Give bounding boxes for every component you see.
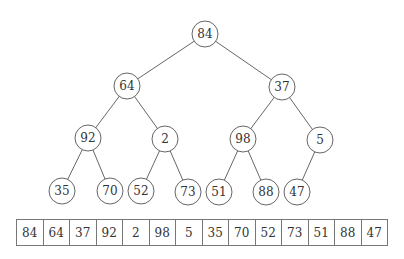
node-value: 73 <box>180 185 195 199</box>
tree-node: 52 <box>128 178 154 204</box>
tree-node: 64 <box>114 73 140 99</box>
tree-node: 88 <box>253 179 279 205</box>
tree-node: 84 <box>192 21 218 47</box>
node-value: 98 <box>235 132 250 146</box>
tree-node: 98 <box>230 126 256 152</box>
node-value: 64 <box>119 79 135 93</box>
node-value: 37 <box>274 80 289 94</box>
tree-node: 70 <box>97 178 123 204</box>
array-cell: 47 <box>362 220 389 245</box>
array-cell: 92 <box>97 220 124 245</box>
tree-edge <box>205 34 282 87</box>
node-value: 47 <box>289 185 304 199</box>
node-value: 88 <box>258 185 273 199</box>
array-cell: 84 <box>17 220 44 245</box>
node-value: 84 <box>197 27 213 41</box>
array-cell: 51 <box>309 220 336 245</box>
array-cell: 70 <box>229 220 256 245</box>
node-value: 35 <box>54 184 69 198</box>
tree-node: 51 <box>206 179 232 205</box>
tree-node: 73 <box>175 179 201 205</box>
node-value: 5 <box>316 133 324 147</box>
array-cell: 35 <box>203 220 230 245</box>
array-cell: 73 <box>282 220 309 245</box>
tree-node: 35 <box>49 178 75 204</box>
array-cell: 88 <box>335 220 362 245</box>
node-value: 70 <box>102 184 117 198</box>
tree-node: 92 <box>75 125 101 151</box>
tree-edge <box>127 34 205 86</box>
array-cell: 64 <box>44 220 71 245</box>
tree-node: 37 <box>269 74 295 100</box>
array-cell: 52 <box>256 220 283 245</box>
array-cell: 98 <box>150 220 177 245</box>
node-value: 92 <box>80 131 95 145</box>
tree-nodes: 84643792298535705273518847 <box>49 21 333 205</box>
array-cell: 37 <box>70 220 97 245</box>
tree-node: 47 <box>284 179 310 205</box>
tree-node: 2 <box>152 126 178 152</box>
array-representation: 84643792298535705273518847 <box>16 219 388 246</box>
tree-edges <box>62 34 320 192</box>
node-value: 2 <box>161 132 169 146</box>
array-cell: 5 <box>176 220 203 245</box>
array-cell: 2 <box>123 220 150 245</box>
tree-node: 5 <box>307 127 333 153</box>
node-value: 51 <box>211 185 226 199</box>
node-value: 52 <box>133 184 148 198</box>
